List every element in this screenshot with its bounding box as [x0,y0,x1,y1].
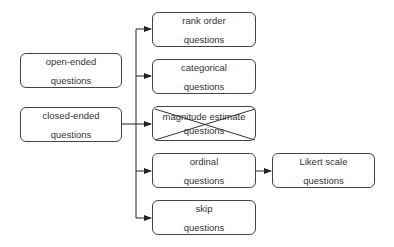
cross-out-mark [153,107,257,142]
node-label: skip [196,199,213,218]
node-label: questions [184,171,225,190]
node-label: questions [303,171,344,190]
node-magnitude-estimate: magnitude estimate questions [152,106,256,141]
node-label: questions [184,30,225,49]
node-label: questions [184,218,225,237]
node-label: categorical [181,58,227,77]
node-label: ordinal [190,152,219,171]
node-label: open-ended [46,52,97,71]
node-likert-scale: Likert scale questions [272,153,375,188]
node-label: questions [184,77,225,96]
node-open-ended: open-ended questions [20,53,122,88]
node-skip: skip questions [152,200,256,235]
node-label: Likert scale [299,152,347,171]
node-label: questions [51,71,92,90]
node-rank-order: rank order questions [152,12,256,47]
node-label: rank order [182,11,225,30]
node-ordinal: ordinal questions [152,153,256,188]
node-closed-ended: closed-ended questions [20,107,122,142]
node-categorical: categorical questions [152,59,256,94]
node-label: questions [51,125,92,144]
node-label: closed-ended [42,106,99,125]
